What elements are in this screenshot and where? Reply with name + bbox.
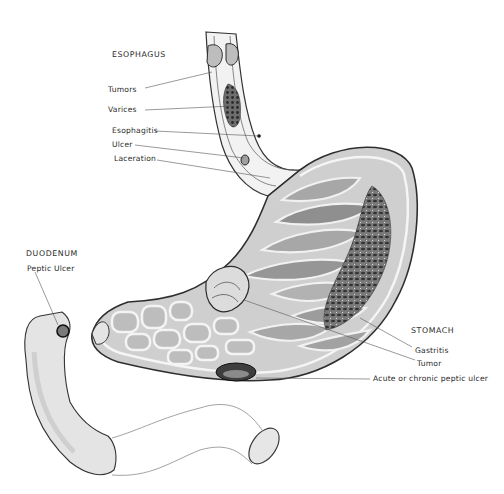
label-tumor: Tumor	[417, 360, 441, 368]
label-stomach: STOMACH	[411, 327, 454, 335]
stomach-illustration	[0, 0, 504, 494]
label-peptic-ulcer: Peptic Ulcer	[27, 265, 75, 273]
jejunum-outline	[112, 404, 262, 475]
label-gastritis: Gastritis	[415, 347, 449, 355]
label-duodenum: DUODENUM	[26, 250, 78, 258]
label-laceration: Laceration	[114, 155, 156, 163]
label-ulcer: Ulcer	[112, 141, 133, 149]
diagram-canvas: ESOPHAGUS Tumors Varices Esophagitis Ulc…	[0, 0, 504, 494]
label-esophagitis: Esophagitis	[112, 127, 158, 135]
jejunum-cut-end	[243, 423, 286, 470]
label-esophagus: ESOPHAGUS	[112, 51, 166, 59]
label-tumors: Tumors	[108, 86, 137, 94]
label-varices: Varices	[108, 106, 137, 114]
duodenal-ulcer	[57, 325, 69, 337]
esophageal-ulcer	[241, 155, 249, 165]
label-acute-chronic-peptic-ulcer: Acute or chronic peptic ulcer	[373, 375, 488, 383]
